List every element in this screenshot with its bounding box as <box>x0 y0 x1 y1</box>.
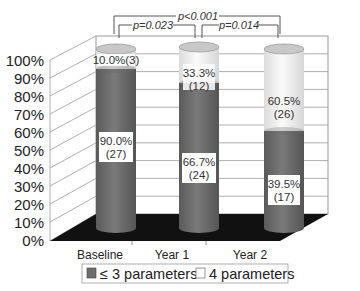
y-tick-label: 20% <box>14 196 44 213</box>
y-tick-label: 40% <box>14 160 44 177</box>
bar-baseline: 10.0%(3) 90.0% (27) <box>93 44 140 233</box>
legend-label: ≤ 3 parameters <box>100 266 197 282</box>
chart-canvas: 0% 10% 20% 30% 40% 50% 60% 70% 80% 90% 1… <box>0 0 360 291</box>
legend-swatch-dark <box>87 268 96 278</box>
y-tick-label: 0% <box>22 232 44 249</box>
p-value-annotation: p=0.023 <box>132 19 174 31</box>
y-tick-label: 100% <box>6 52 44 69</box>
data-label: 60.5% <box>268 95 301 107</box>
legend-label: 4 parameters <box>209 266 294 282</box>
data-label: (27) <box>106 148 127 160</box>
y-tick-label: 50% <box>14 142 44 159</box>
data-label: (12) <box>189 80 210 92</box>
x-tick-label: Baseline <box>77 248 123 262</box>
data-label: 33.3% <box>183 67 216 79</box>
x-axis: Baseline Year 1 Year 2 <box>77 241 267 262</box>
data-label: 90.0% <box>100 135 133 147</box>
y-tick-label: 80% <box>14 88 44 105</box>
y-tick-label: 30% <box>14 178 44 195</box>
bar-year-2: 60.5% (26) 39.5% (17) <box>264 44 304 233</box>
data-label: (26) <box>274 108 295 120</box>
data-label: 39.5% <box>268 178 301 190</box>
x-tick-label: Year 1 <box>155 248 190 262</box>
x-tick-label: Year 2 <box>233 248 268 262</box>
legend: ≤ 3 parameters 4 parameters <box>82 264 294 283</box>
y-tick-label: 60% <box>14 124 44 141</box>
y-tick-label: 90% <box>14 70 44 87</box>
p-value-annotation: p=0.014 <box>218 19 259 31</box>
y-axis: 0% 10% 20% 30% 40% 50% 60% 70% 80% 90% 1… <box>6 52 44 249</box>
data-label: 10.0%(3) <box>93 54 140 66</box>
p-value-annotation: p<0.001 <box>177 10 218 22</box>
data-label: 66.7% <box>183 156 216 168</box>
data-label: (24) <box>189 169 210 181</box>
y-tick-label: 70% <box>14 106 44 123</box>
y-tick-label: 10% <box>14 214 44 231</box>
legend-swatch-light <box>196 268 205 278</box>
bar-year-1: 33.3% (12) 66.7% (24) <box>179 42 219 233</box>
data-label: (17) <box>274 191 295 203</box>
